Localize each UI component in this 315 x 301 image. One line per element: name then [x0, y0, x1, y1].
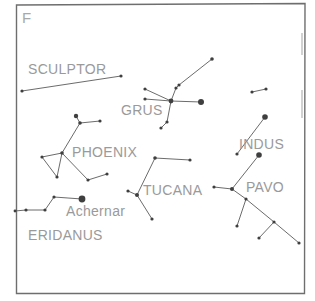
label-sculptor: SCULPTOR [28, 61, 106, 77]
phoenix-line [80, 121, 100, 123]
pavo-line [237, 199, 246, 226]
star-chart: F SCULPTOR GRUS PHOENIX INDUS TUCANA PAV… [0, 0, 315, 301]
indus-line [252, 89, 266, 92]
label-grus: GRUS [121, 102, 163, 118]
eridanus-star [43, 208, 46, 211]
pavo-star [297, 241, 300, 244]
eridanus-star [79, 196, 86, 203]
pavo-star [244, 197, 247, 200]
eridanus-star [52, 195, 55, 198]
phoenix-line [42, 157, 57, 177]
grus-star [159, 126, 162, 129]
label-pavo: PAVO [246, 179, 284, 195]
pavo-line [259, 222, 274, 238]
grus-star [165, 120, 168, 123]
grus-star [210, 57, 214, 61]
grus-star [143, 97, 146, 100]
indus-star [264, 87, 267, 90]
phoenix-star [105, 172, 108, 175]
phoenix-line [57, 153, 62, 177]
pavo-line [274, 222, 299, 243]
phoenix-star [40, 155, 43, 158]
label-achernar: Achernar [66, 203, 125, 219]
pavo-line [246, 199, 274, 222]
pavo-star [257, 236, 260, 239]
eridanus-line [54, 197, 82, 199]
phoenix-star [55, 175, 58, 178]
phoenix-line [88, 174, 107, 180]
grus-star [177, 83, 180, 86]
eridanus-star [14, 210, 17, 213]
sculptor-star [20, 89, 23, 92]
grus-line [171, 101, 201, 102]
sculptor-star [119, 74, 122, 77]
label-phoenix: PHOENIX [72, 144, 137, 160]
grus-star [198, 99, 204, 105]
tucana-star [135, 193, 139, 197]
phoenix-star [86, 178, 89, 181]
indus-star [250, 90, 253, 93]
plate-letter: F [22, 9, 31, 26]
grus-star [143, 87, 146, 90]
pavo-star [272, 220, 275, 223]
phoenix-star [60, 151, 64, 155]
label-indus: INDUS [239, 136, 284, 152]
pavo-star [235, 224, 238, 227]
eridanus-star [24, 208, 27, 211]
pavo-line [214, 187, 232, 189]
grus-line [167, 101, 171, 122]
indus-star [235, 152, 238, 155]
grus-star [174, 86, 177, 89]
phoenix-star [74, 114, 78, 118]
tucana-star [153, 156, 157, 160]
phoenix-star [78, 121, 82, 125]
phoenix-star [98, 119, 101, 122]
scan-artifact [301, 90, 303, 118]
pavo-star [212, 185, 215, 188]
indus-star [262, 114, 268, 120]
pavo-line [232, 189, 246, 199]
label-eridanus: ERIDANUS [28, 227, 103, 243]
tucana-line [155, 158, 190, 160]
sculptor-line [22, 76, 121, 91]
grus-line [179, 59, 212, 85]
eridanus-line [45, 197, 54, 210]
tucana-star [150, 217, 153, 220]
label-tucana: TUCANA [143, 182, 203, 198]
tucana-star [188, 158, 191, 161]
pavo-star [230, 187, 234, 191]
pavo-star [256, 152, 262, 158]
tucana-star [126, 189, 129, 192]
tucana-line [137, 195, 152, 219]
grus-star [169, 99, 174, 104]
scan-artifact [301, 33, 303, 55]
phoenix-line [42, 153, 62, 157]
